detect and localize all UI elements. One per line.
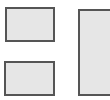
bottom-left-box [4,61,55,96]
top-left-box [5,7,55,42]
diagram-canvas [0,0,110,100]
tall-right-box [78,9,110,96]
